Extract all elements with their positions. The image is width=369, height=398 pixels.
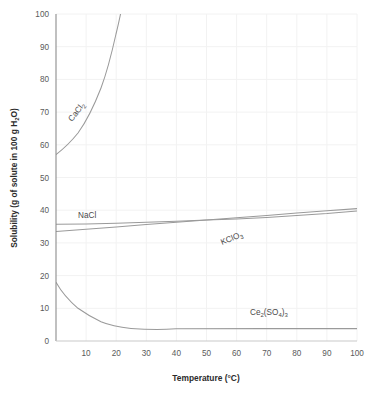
x-tick-20: 20 [112, 349, 122, 358]
y-tick-80: 80 [40, 75, 50, 84]
y-tick-90: 90 [40, 43, 50, 52]
y-axis-title: Solubility (g of solute in 100 g H2O) [9, 108, 20, 248]
x-axis-title: Temperature (°C) [172, 373, 240, 383]
solubility-chart: 100 90 80 70 60 50 40 30 20 10 0 10 20 3… [0, 0, 369, 398]
y-tick-20: 20 [40, 272, 50, 281]
y-tick-30: 30 [40, 239, 50, 248]
x-tick-10: 10 [82, 349, 92, 358]
y-tick-0: 0 [44, 337, 49, 346]
y-tick-40: 40 [40, 206, 50, 215]
series-label-ce2so43-pre: Ce [250, 308, 261, 317]
x-tick-80: 80 [292, 349, 302, 358]
x-tick-50: 50 [202, 349, 212, 358]
x-tick-40: 40 [172, 349, 182, 358]
series-label-nacl: NaCl [78, 211, 96, 220]
x-tick-90: 90 [322, 349, 332, 358]
y-tick-70: 70 [40, 108, 50, 117]
y-tick-100: 100 [35, 10, 49, 19]
x-tick-100: 100 [350, 349, 364, 358]
x-tick-70: 70 [262, 349, 272, 358]
series-label-nacl-pre: NaCl [78, 211, 96, 220]
y-axis-title-pre: Solubility (g of solute in 100 g H [9, 121, 19, 248]
y-axis-title-post: O) [9, 108, 19, 118]
x-tick-60: 60 [232, 349, 242, 358]
y-tick-10: 10 [40, 304, 50, 313]
series-label-ce2so43-post: (SO [264, 308, 279, 317]
y-tick-50: 50 [40, 174, 50, 183]
series-label-ce2so43: Ce2(SO4)3 [250, 308, 288, 318]
chart-background [0, 0, 369, 398]
y-tick-60: 60 [40, 141, 50, 150]
x-tick-30: 30 [142, 349, 152, 358]
